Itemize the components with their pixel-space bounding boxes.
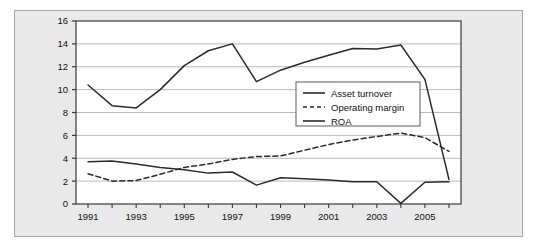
x-tick-label: 1999 xyxy=(270,211,291,222)
legend-label-asset-turnover: Asset turnover xyxy=(331,88,392,99)
x-tick-label: 1991 xyxy=(77,211,98,222)
legend-label-operating-margin: Operating margin xyxy=(331,102,404,113)
x-tick-labels-group: 19911993199519971999200120032005 xyxy=(77,211,435,222)
x-tick-label: 1993 xyxy=(126,211,147,222)
y-tick-label: 6 xyxy=(63,130,68,141)
x-tick-marks-group xyxy=(88,204,449,208)
y-tick-label: 8 xyxy=(63,107,68,118)
x-tick-label: 2005 xyxy=(414,211,435,222)
x-tick-label: 1995 xyxy=(174,211,195,222)
plot-wrapper: 0246810121416 19911993199519971999200120… xyxy=(15,11,524,238)
y-tick-label: 2 xyxy=(63,176,68,187)
y-tick-label: 14 xyxy=(57,38,68,49)
y-tick-label: 10 xyxy=(57,84,68,95)
legend-label-roa: ROA xyxy=(331,116,352,127)
chart-figure: 0246810121416 19911993199519971999200120… xyxy=(14,10,523,237)
y-tick-labels-group: 0246810121416 xyxy=(57,15,68,209)
y-tick-label: 0 xyxy=(63,198,68,209)
y-tick-label: 16 xyxy=(57,15,68,26)
y-tick-label: 4 xyxy=(63,153,68,164)
x-tick-label: 2001 xyxy=(318,211,339,222)
line-chart: 0246810121416 19911993199519971999200120… xyxy=(15,11,524,238)
x-tick-label: 2003 xyxy=(366,211,387,222)
y-tick-label: 12 xyxy=(57,61,68,72)
x-tick-label: 1997 xyxy=(222,211,243,222)
chart-legend: Asset turnoverOperating marginROA xyxy=(296,82,420,127)
